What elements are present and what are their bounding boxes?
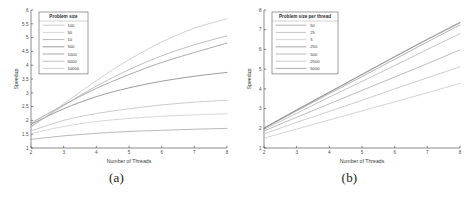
y-axis-title: Speedup [246,69,252,90]
y-tick-label: 2.5 [22,104,29,109]
y-tick-label: 2 [259,126,262,131]
y-tick-label: 5 [26,35,29,40]
y-tick-label: 8 [259,8,262,13]
chart-b-plot-area: 123456782345678Number of ThreadsSpeedupP… [233,0,466,172]
y-tick-label: 5 [259,67,262,72]
x-tick-label: 7 [193,150,196,155]
legend-label-25: 25 [310,30,315,35]
panel-b: 123456782345678Number of ThreadsSpeedupP… [233,0,466,205]
x-tick-label: 3 [295,150,298,155]
legend-box [272,12,338,74]
y-tick-label: 1 [26,146,29,151]
x-tick-label: 2 [263,150,266,155]
legend-label-1000: 1000 [67,52,77,57]
y-tick-label: 6 [259,47,262,52]
series-line-100 [31,100,227,131]
y-tick-label: 2 [26,118,29,123]
chart-a-svg: 11.522.533.544.555.562345678Number of Th… [0,0,233,172]
legend-label-50: 50 [67,30,72,35]
legend-label-100: 100 [67,23,75,28]
y-tick-label: 3.5 [22,77,29,82]
legend-label-250: 250 [310,44,318,49]
series-line-500 [31,72,227,124]
y-tick-label: 4 [259,87,262,92]
chart-a-plot-area: 11.522.533.544.555.562345678Number of Th… [0,0,233,172]
y-tick-label: 4.5 [22,49,29,54]
x-tick-label: 4 [95,150,98,155]
series-line-50 [31,114,227,134]
x-tick-label: 2 [30,150,33,155]
x-tick-label: 8 [459,150,462,155]
x-tick-label: 3 [62,150,65,155]
y-tick-label: 3 [259,106,262,111]
y-tick-label: 7 [259,27,262,32]
figure-two-panel-speedup-charts: 11.522.533.544.555.562345678Number of Th… [0,0,466,205]
legend-label-5000: 5000 [310,66,320,71]
y-tick-label: 5.5 [22,22,29,27]
y-axis-title: Speedup [13,69,19,90]
panel-a: 11.522.533.544.555.562345678Number of Th… [0,0,233,205]
series-line-5 [264,83,460,138]
x-tick-label: 5 [361,150,364,155]
x-tick-label: 6 [393,150,396,155]
y-tick-label: 1.5 [22,132,29,137]
legend-label-2500: 2500 [310,59,320,64]
y-tick-label: 4 [26,63,29,68]
y-tick-label: 3 [26,91,29,96]
legend-title: Problem size [49,14,78,19]
series-line-10 [31,128,227,139]
legend-label-10000: 10000 [67,66,79,71]
x-axis-title: Number of Threads [340,158,385,164]
panel-a-caption: (a) [0,170,233,186]
legend-box [39,12,88,74]
x-tick-label: 6 [160,150,163,155]
y-tick-label: 1 [259,146,262,151]
chart-b-svg: 123456782345678Number of ThreadsSpeedupP… [233,0,466,172]
x-tick-label: 5 [128,150,131,155]
x-tick-label: 7 [426,150,429,155]
x-axis-title: Number of Threads [107,158,152,164]
panel-b-caption: (b) [233,170,466,186]
x-tick-label: 8 [226,150,229,155]
legend-label-50: 50 [310,23,315,28]
y-tick-label: 6 [26,8,29,13]
legend-label-10: 10 [67,37,72,42]
legend-title: Problem size per thread [279,14,331,19]
legend-label-500: 500 [67,44,75,49]
legend-label-5000: 5000 [67,59,77,64]
legend-label-500: 500 [310,52,318,57]
x-tick-label: 4 [328,150,331,155]
